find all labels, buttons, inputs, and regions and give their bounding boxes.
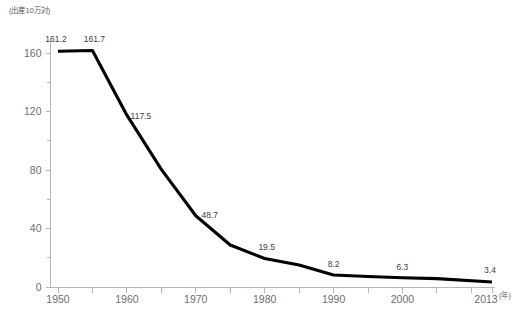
x-tick-label: 2013 [474, 293, 498, 305]
data-point-label: 161.2 [45, 34, 67, 44]
data-point-label: 48.7 [202, 210, 219, 220]
y-axis-ticks [46, 53, 51, 287]
data-point-labels: 161.2161.7117.548.719.58.26.33.4 [45, 34, 496, 276]
x-tick-label: 1970 [184, 293, 208, 305]
x-tick-label: 1960 [115, 293, 139, 305]
data-point-label: 3.4 [484, 265, 496, 275]
data-point-label: 6.3 [397, 262, 409, 272]
x-axis-unit-label: (年) [499, 290, 511, 300]
x-axis-tick-labels: 1950196019701980199020002013 [46, 293, 498, 305]
x-tick-label: 1950 [46, 293, 70, 305]
x-axis-ticks [58, 288, 492, 293]
data-point-label: 8.2 [328, 259, 340, 269]
y-tick-label: 40 [30, 222, 42, 234]
y-tick-label: 120 [24, 105, 42, 117]
y-axis-tick-labels: 04080120160 [24, 47, 42, 293]
y-tick-label: 0 [36, 281, 42, 293]
data-point-label: 19.5 [258, 242, 275, 252]
data-point-label: 117.5 [131, 111, 152, 121]
x-axis: 1950196019701980199020002013 (年) [46, 288, 511, 306]
x-tick-label: 1990 [322, 293, 346, 305]
data-point-label: 161.7 [84, 34, 106, 44]
y-tick-label: 160 [24, 47, 42, 59]
maternal-mortality-line-chart: (出産10万対) 04080120160 1950196019701980199… [0, 0, 530, 311]
x-tick-label: 2000 [391, 293, 415, 305]
y-tick-label: 80 [30, 164, 42, 176]
x-tick-label: 1980 [253, 293, 277, 305]
data-series-line [58, 51, 492, 283]
chart-plot-area: 04080120160 1950196019701980199020002013… [0, 0, 530, 311]
y-axis: 04080120160 [24, 40, 51, 293]
